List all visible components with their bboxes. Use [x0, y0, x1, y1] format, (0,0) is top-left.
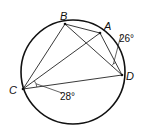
- point-label-A: A: [103, 20, 111, 32]
- segment-BC: [23, 24, 65, 89]
- point-label-C: C: [9, 84, 17, 96]
- segment-CD: [23, 75, 122, 89]
- segment-CA: [23, 33, 100, 89]
- circle: [21, 20, 125, 124]
- point-label-D: D: [126, 70, 134, 82]
- point-D: [121, 74, 124, 77]
- angle-marks: [34, 35, 121, 93]
- angle-label-D: 26°: [119, 33, 134, 44]
- point-C: [22, 88, 25, 91]
- angle-label-C: 28°: [60, 91, 75, 102]
- point-A: [99, 32, 102, 35]
- point-label-B: B: [60, 10, 67, 22]
- geometry-diagram: BADC26°28°: [0, 0, 146, 137]
- diagram-svg: BADC26°28°: [0, 0, 146, 137]
- point-B: [64, 23, 67, 26]
